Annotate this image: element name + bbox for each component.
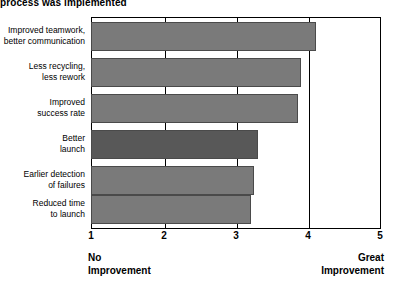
scale-anchor-high: Great Improvement [321,252,384,277]
chart-page: process was implemented Improved teamwor… [0,0,410,292]
category-label-4: Earlier detection of failures [24,169,85,191]
scale-anchor-high-line: Improvement [321,265,384,278]
category-label-2: Improved success rate [37,97,85,119]
page-title: process was implemented [0,0,127,8]
category-label-line: better communication [4,36,85,46]
bar-earlier-detection-of-failures [91,166,254,195]
scale-anchor-low-line: Improvement [88,265,151,278]
x-tick-4: 4 [305,230,311,241]
category-label-line: to launch [51,209,86,219]
scale-anchor-low-line: No [88,252,151,265]
bar-improved-success-rate [91,94,298,123]
category-label-1: Less recycling, less rework [29,61,85,83]
bar-improved-teamwork-better-communication [91,22,316,51]
x-tick-1: 1 [88,230,94,241]
category-label-line: less rework [42,72,85,82]
category-label-line: Less recycling, [29,61,85,71]
category-label-3: Better launch [60,133,85,155]
x-axis-ticks: 1 2 3 4 5 [0,230,410,244]
category-label-line: Reduced time [33,198,85,208]
category-label-0: Improved teamwork, better communication [4,25,85,47]
category-label-line: Improved teamwork, [8,25,85,35]
category-labels: Improved teamwork, better communication … [0,17,88,229]
scale-anchor-low: No Improvement [88,252,151,277]
x-tick-3: 3 [233,230,239,241]
category-label-line: of failures [48,180,85,190]
bars-layer [91,17,381,229]
bar-reduced-time-to-launch [91,195,251,224]
category-label-line: Earlier detection [24,169,85,179]
category-label-line: success rate [37,108,85,118]
category-label-line: Better [62,133,85,143]
category-label-line: launch [60,144,85,154]
x-tick-2: 2 [161,230,167,241]
x-tick-5: 5 [377,230,383,241]
category-label-5: Reduced time to launch [33,198,85,220]
category-label-line: Improved [50,97,85,107]
scale-anchor-high-line: Great [321,252,384,265]
bar-less-recycling-less-rework [91,58,301,87]
bar-better-launch [91,130,258,159]
